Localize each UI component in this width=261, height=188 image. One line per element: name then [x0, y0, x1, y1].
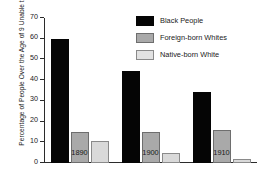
- y-axis-tick: 50: [40, 58, 44, 59]
- y-axis-tick-label: 40: [30, 75, 38, 83]
- bar: [193, 92, 211, 163]
- y-axis-tick-label: 50: [30, 54, 38, 62]
- legend-item: Black People: [136, 12, 227, 29]
- legend-label: Foreign-born Whites: [160, 33, 227, 42]
- legend: Black PeopleForeign-born WhitesNative-bo…: [136, 12, 227, 63]
- legend-item: Native-born White: [136, 46, 227, 63]
- y-axis-tick-label: 70: [30, 13, 38, 21]
- y-axis-tick: 0: [40, 162, 44, 163]
- y-axis-tick: 70: [40, 17, 44, 18]
- legend-item: Foreign-born Whites: [136, 29, 227, 46]
- y-axis-tick-label: 30: [30, 95, 38, 103]
- y-axis-tick-label: 0: [34, 158, 38, 166]
- bar: [51, 39, 69, 163]
- x-axis-tick-label: 1910: [213, 148, 229, 157]
- bar: [91, 141, 109, 163]
- x-axis-tick-label: 1890: [71, 148, 87, 157]
- x-axis-tick-label: 1900: [142, 148, 158, 157]
- bar: [162, 153, 180, 163]
- legend-swatch: [136, 16, 154, 26]
- y-axis-tick-label: 10: [30, 137, 38, 145]
- y-axis-tick: 10: [40, 141, 44, 142]
- y-axis-tick-label: 20: [30, 116, 38, 124]
- legend-swatch: [136, 50, 154, 60]
- y-axis-tick: 60: [40, 38, 44, 39]
- chart-title-remnant: [62, 0, 192, 2]
- bar-chart: Percentage of People Over the Age of 9 U…: [0, 0, 261, 188]
- bar: [233, 159, 251, 163]
- bar: [213, 130, 231, 163]
- y-axis-title: Percentage of People Over the Age of 9 U…: [18, 0, 26, 147]
- legend-label: Black People: [160, 16, 203, 25]
- legend-swatch: [136, 33, 154, 43]
- y-axis-tick-label: 60: [30, 33, 38, 41]
- y-axis-line: [44, 18, 45, 163]
- y-axis-tick: 20: [40, 121, 44, 122]
- bar: [122, 71, 140, 163]
- legend-label: Native-born White: [160, 50, 219, 59]
- y-axis-tick: 40: [40, 79, 44, 80]
- y-axis-tick: 30: [40, 100, 44, 101]
